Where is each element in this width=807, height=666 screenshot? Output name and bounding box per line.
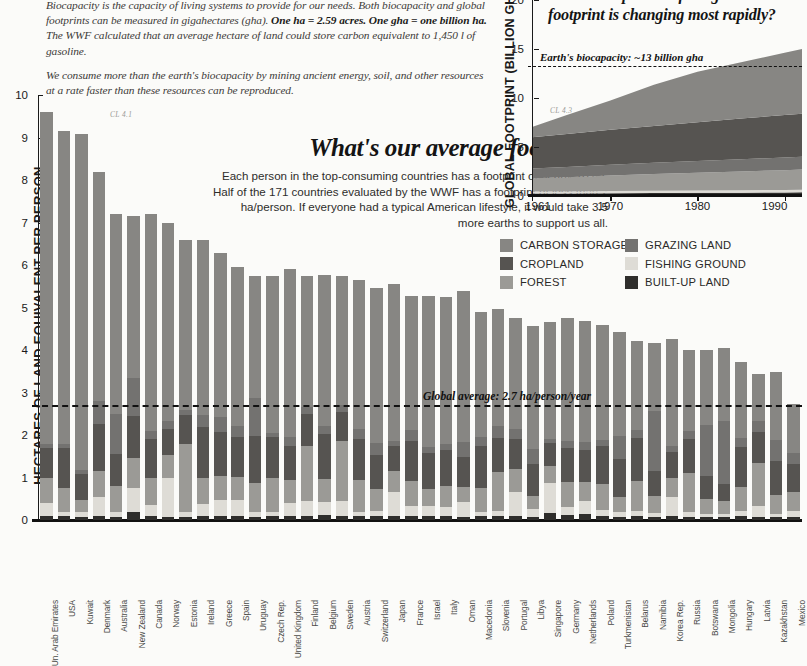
bar-chart-segment [40,478,53,504]
bar-chart-bar[interactable] [648,343,661,520]
legend-item[interactable]: CROPLAND [500,255,628,274]
bar-chart-segment [127,216,140,378]
legend-label: CARBON STORAGE [520,239,628,251]
bar-chart-bar[interactable] [631,341,644,520]
bar-chart-segment [301,501,314,516]
bar-chart-bar[interactable] [231,267,244,520]
area-chart-x-tick-mark [532,196,533,201]
bar-chart-bar[interactable] [422,296,435,520]
bar-chart-bar[interactable] [787,404,800,520]
legend-item[interactable]: FISHING GROUND [625,255,746,274]
legend-label: GRAZING LAND [645,239,731,251]
bar-chart-segment [249,483,262,513]
bar-chart-country-label: Denmark [102,600,112,633]
bar-chart-segment [735,362,748,439]
bar-chart-bar[interactable] [284,269,297,520]
bar-chart-segment [475,488,488,511]
bar-chart-bar[interactable] [58,131,71,520]
bar-chart-bar[interactable] [509,318,522,520]
bar-chart-segment [422,296,435,447]
bar-chart-segment [197,504,210,516]
bar-chart-country-label: Turkmenistan [623,600,633,649]
bar-chart-segment [231,500,244,515]
bar-chart-bar[interactable] [440,297,453,520]
bar-chart-segment [93,516,106,520]
bar-chart-segment [787,464,800,492]
bar-chart-bar[interactable] [388,284,401,520]
bar-chart-segment [284,503,297,516]
legend-item[interactable]: BUILT-UP LAND [625,273,746,292]
bar-chart-bar[interactable] [75,134,88,520]
bar-chart-segment [544,466,557,483]
area-chart-y-tick-mark [534,49,539,50]
bar-chart-bar[interactable] [544,322,557,520]
bar-chart-bar[interactable] [301,276,314,520]
bar-chart-y-tick-label: 6 [22,259,28,271]
bar-chart-segment [249,276,262,397]
legend-item[interactable]: GRAZING LAND [625,236,746,255]
bar-chart-bar[interactable] [93,172,106,521]
bar-chart-bar[interactable] [527,326,540,520]
bar-chart-bar[interactable] [197,240,210,520]
bar-chart-bar[interactable] [700,350,713,520]
bar-chart-bar[interactable] [405,296,418,520]
area-chart-y-tick-mark [534,98,539,99]
bar-chart-bar[interactable] [336,276,349,520]
bar-chart-bar[interactable] [613,332,626,520]
bar-chart-bar[interactable] [318,275,331,520]
bar-chart-bar[interactable] [770,372,783,520]
legend-item[interactable]: FOREST [500,273,628,292]
bar-chart-segment [75,134,88,470]
bar-chart-bar[interactable] [40,112,53,520]
legend-column: CARBON STORAGECROPLANDFOREST [500,236,628,292]
biocapacity-line [528,66,802,67]
bar-chart-segment [370,443,383,456]
bar-chart-segment [718,421,731,485]
bar-chart-bar[interactable] [179,240,192,520]
legend-item[interactable]: CARBON STORAGE [500,236,628,255]
bar-chart-country-label: Slovenia [501,600,511,631]
area-chart-y-tick-label: 0 [518,190,524,202]
bar-chart-bar[interactable] [162,223,175,520]
bar-chart-bar[interactable] [370,288,383,520]
bar-chart-segment [318,479,331,502]
bar-chart-bar[interactable] [492,309,505,520]
bar-chart-segment [145,505,158,516]
bar-chart-segment [492,438,505,472]
bar-chart-bar[interactable] [266,276,279,520]
bar-chart-country-label: Sweden [345,600,355,630]
bar-chart-segment [440,516,453,520]
global-average-label: Global average: 2.7 ha/person/year [423,390,591,403]
bar-chart-bar[interactable] [596,325,609,520]
bar-chart-segment [787,404,800,453]
bar-chart-segment [752,517,765,520]
bar-chart-bar[interactable] [579,321,592,520]
bar-chart-bar[interactable] [127,216,140,520]
bar-chart-country-label: Uruguay [258,600,268,631]
bar-chart-bar[interactable] [666,339,679,520]
bar-chart-segment [388,284,401,441]
bar-chart-bar[interactable] [561,318,574,520]
bar-chart-segment [197,415,210,428]
bar-chart-country-label: Norway [171,600,181,628]
bar-chart-segment [683,517,696,520]
bar-chart-bar[interactable] [353,280,366,520]
bar-chart-bar[interactable] [752,374,765,520]
bar-chart-segment [613,497,626,512]
bar-chart-segment [509,469,522,492]
bar-chart-segment [683,431,696,440]
bar-chart-bar[interactable] [475,312,488,520]
bar-chart-bar[interactable] [718,348,731,520]
bar-chart-segment [318,502,331,515]
bar-chart-bar[interactable] [249,276,262,520]
bar-chart-bar[interactable] [735,362,748,520]
bar-chart-segment [301,446,314,501]
area-chart-x-tick-mark [610,196,611,201]
bar-chart-segment [301,516,314,520]
bar-chart-bar[interactable] [110,214,123,520]
bar-chart-bar[interactable] [145,214,158,520]
bar-chart-segment [718,484,731,501]
bar-chart-y-tick-label: 3 [22,387,28,399]
bar-chart-bar[interactable] [683,350,696,520]
bar-chart-bar[interactable] [214,253,227,520]
